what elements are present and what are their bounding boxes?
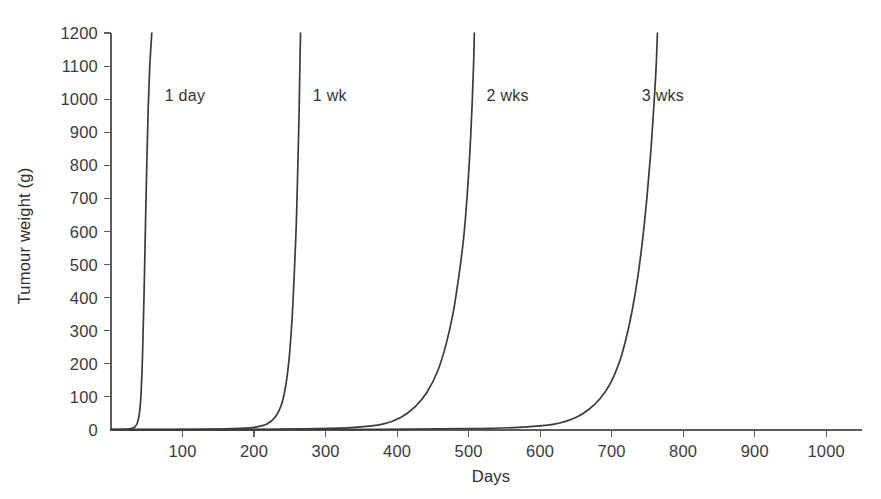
y-axis-tick-label: 700 xyxy=(70,189,98,207)
y-axis-title: Tumour weight (g) xyxy=(15,168,33,305)
x-axis-tick-label: 1000 xyxy=(807,442,845,460)
x-axis-tick-label: 700 xyxy=(598,442,626,460)
x-axis-tick-label: 400 xyxy=(383,442,411,460)
y-axis-tick-label: 300 xyxy=(70,322,98,340)
y-axis-tick-label: 600 xyxy=(70,223,98,241)
curve-label-1-day: 1 day xyxy=(165,87,206,104)
x-axis-tick-label: 500 xyxy=(455,442,483,460)
y-axis: 0100200300400500600700800900100011001200 xyxy=(60,24,111,439)
curve-label-3-wks: 3 wks xyxy=(642,87,684,104)
x-axis-tick-label: 900 xyxy=(741,442,769,460)
chart-figure: 0100200300400500600700800900100011001200… xyxy=(0,0,881,499)
growth-curve xyxy=(111,33,152,430)
y-axis-tick-label: 800 xyxy=(70,156,98,174)
x-axis-tick-label: 200 xyxy=(240,442,268,460)
y-axis-tick-label: 1100 xyxy=(62,57,98,75)
y-axis-tick-label: 100 xyxy=(70,388,98,406)
x-axis-tick-label: 600 xyxy=(526,442,554,460)
x-axis-tick-label: 300 xyxy=(312,442,340,460)
tumour-growth-chart: 0100200300400500600700800900100011001200… xyxy=(0,0,881,499)
plot-area: 0100200300400500600700800900100011001200… xyxy=(15,24,862,485)
y-axis-tick-label: 200 xyxy=(70,355,98,373)
curve-annotations: 1 day1 wk2 wks3 wks xyxy=(165,87,684,104)
growth-curve xyxy=(111,33,301,430)
curve-label-2-wks: 2 wks xyxy=(487,87,529,104)
y-axis-tick-label: 1000 xyxy=(60,90,98,108)
y-axis-tick-label: 500 xyxy=(70,256,98,274)
x-axis-tick-label: 100 xyxy=(168,442,196,460)
y-axis-tick-label: 0 xyxy=(89,421,98,439)
x-axis: 1002003004005006007008009001000 xyxy=(111,430,862,460)
y-axis-tick-label: 1200 xyxy=(60,24,98,42)
x-axis-title: Days xyxy=(472,467,510,485)
y-axis-tick-label: 900 xyxy=(70,123,98,141)
curve-label-1-wk: 1 wk xyxy=(313,87,348,104)
x-axis-tick-label: 800 xyxy=(669,442,697,460)
y-axis-tick-label: 400 xyxy=(70,289,98,307)
